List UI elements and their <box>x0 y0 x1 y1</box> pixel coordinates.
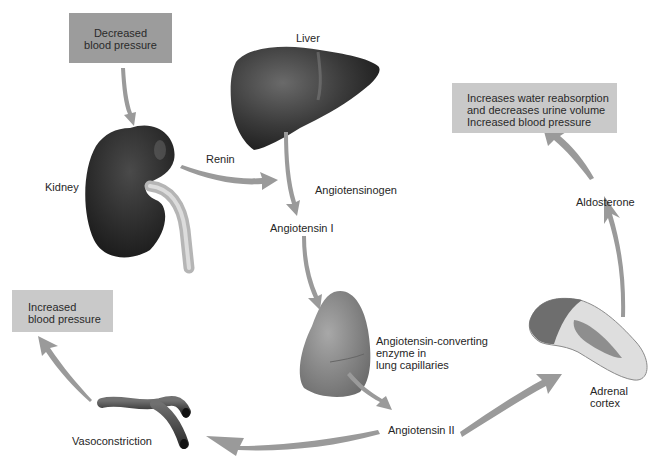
adrenal-label-line: Adrenal <box>590 385 628 397</box>
increased-blood-pressure-box: Increased blood pressure <box>12 290 113 332</box>
arrow-liver-to-angiotensin-1 <box>284 132 300 216</box>
adrenal-cortex-illustration <box>529 298 647 380</box>
adrenal-cortex-label: Adrenal cortex <box>590 385 628 409</box>
arrow-angiotensin-2-to-vasoconstriction <box>206 430 380 456</box>
box-line: Decreased <box>69 27 172 39</box>
arrow-bp-to-kidney <box>121 68 136 126</box>
angiotensinogen-label: Angiotensinogen <box>315 184 397 196</box>
lung-illustration <box>300 291 371 397</box>
box-line: Increased blood pressure <box>467 116 617 128</box>
vasoconstriction-label: Vasoconstriction <box>72 435 152 447</box>
aldosterone-label: Aldosterone <box>576 196 635 208</box>
kidney-label: Kidney <box>45 181 79 193</box>
adrenal-label-line: cortex <box>590 397 628 409</box>
arrow-renin <box>180 165 278 190</box>
arrow-vasoconstriction-to-bp <box>38 336 92 402</box>
box-line: Increased <box>28 301 113 313</box>
arrow-angiotensin-2-to-adrenal <box>460 374 562 437</box>
box-line: blood pressure <box>28 313 113 325</box>
renin-label: Renin <box>206 153 235 165</box>
arrow-angiotensin-1-to-lung <box>302 236 322 310</box>
ace-label-line: Angiotensin-converting <box>376 335 488 347</box>
ace-label: Angiotensin-converting enzyme in lung ca… <box>376 335 488 371</box>
aldosterone-effect-box: Increases water reabsorption and decreas… <box>452 83 617 133</box>
angiotensin-2-label: Angiotensin II <box>388 424 455 436</box>
ace-label-line: lung capillaries <box>376 359 488 371</box>
liver-illustration <box>231 47 380 150</box>
decreased-blood-pressure-box: Decreased blood pressure <box>69 13 172 63</box>
arrow-adrenal-to-aldosterone <box>604 196 625 317</box>
box-line: Increases water reabsorption <box>467 92 617 104</box>
ace-label-line: enzyme in <box>376 347 488 359</box>
kidney-illustration <box>85 126 189 268</box>
box-line: and decreases urine volume <box>467 104 617 116</box>
box-line: blood pressure <box>69 39 172 51</box>
angiotensin-1-label: Angiotensin I <box>270 222 334 234</box>
liver-label: Liver <box>296 32 320 44</box>
